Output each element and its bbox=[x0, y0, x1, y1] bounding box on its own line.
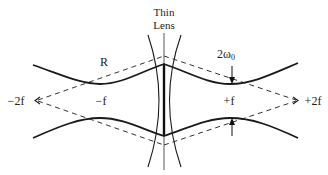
lens-left-surface bbox=[148, 35, 159, 167]
right-focus-marker bbox=[293, 97, 298, 104]
radius-label: R bbox=[100, 55, 108, 69]
waist-label: 2ω0 bbox=[217, 47, 235, 62]
lens-title-line1: Thin bbox=[154, 6, 175, 18]
minus-2f-label: −2f bbox=[8, 94, 25, 108]
plus-f-label: +f bbox=[224, 94, 235, 108]
beam-lower-envelope bbox=[33, 118, 298, 138]
thin-lens-gaussian-beam-diagram: Thin Lens R 2ω0 −f +f −2f +2f bbox=[0, 0, 328, 175]
lens-title-line2: Lens bbox=[153, 19, 174, 31]
waist-arrow-down-icon bbox=[229, 77, 235, 84]
minus-f-label: −f bbox=[96, 94, 107, 108]
left-focus-marker bbox=[35, 97, 40, 104]
beam-upper-envelope bbox=[33, 63, 298, 84]
plus-2f-label: +2f bbox=[305, 94, 322, 108]
lens-right-surface bbox=[170, 35, 182, 167]
